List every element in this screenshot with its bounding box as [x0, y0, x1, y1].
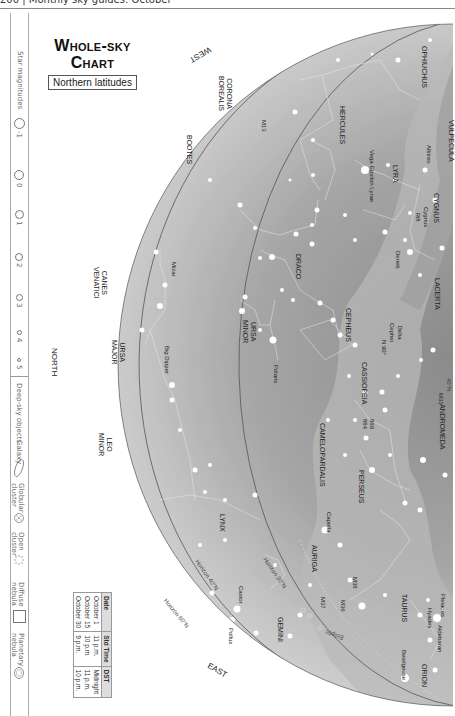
title-block: Whole-sky Chart Northern latitudes: [48, 37, 137, 90]
label-draco: DRACO: [294, 254, 302, 279]
table-row: October 15 10 p.m. 11 p.m.: [83, 593, 92, 698]
magnitude-minus1-icon: [14, 118, 25, 129]
label-cygnus-rift: Cygnus Rift: [414, 207, 430, 227]
label-ophiuchus: OPHIUCHUS: [420, 46, 428, 88]
direction-north: NORTH: [50, 348, 58, 376]
label-deneb: Deneb: [394, 251, 402, 269]
magnitude-2-icon: [15, 253, 23, 261]
open-cluster-icon: [13, 554, 25, 566]
magnitude-label: 5: [15, 365, 23, 369]
label-canes-venatici: CANES VENATICI: [92, 267, 108, 299]
label-m31: M31: [437, 393, 445, 405]
magnitude-label: 2: [15, 263, 23, 267]
magnitude-label: 4: [15, 338, 23, 342]
diffuse-nebula-label: Diffuse nebula: [10, 582, 24, 607]
label-mizar: Mizar: [170, 262, 178, 277]
label-m13: M13: [260, 120, 268, 132]
title-line-2: Chart: [48, 54, 137, 71]
cell-std: 10 p.m.: [83, 632, 92, 666]
label-orion: ORION: [420, 664, 428, 687]
label-cassiopeia: CASSIOPEIA: [360, 362, 368, 404]
label-lyra: LYRA: [391, 165, 399, 183]
label-m37: M37: [319, 597, 327, 609]
label-delta-cephei: Delta Cephei: [388, 323, 404, 342]
globular-cluster-label: Globular cluster: [10, 483, 24, 513]
label-pleiades: Pleiades: [439, 594, 447, 617]
galaxy-ellipse-icon: [13, 458, 25, 478]
label-north-pole-90: N 90°: [380, 340, 388, 355]
label-ngc884: 884: [361, 419, 369, 429]
cell-date: October 1: [92, 593, 102, 632]
cell-date: October 30: [74, 593, 84, 632]
label-m36: M36: [339, 600, 347, 612]
cell-dst: 10 p.m.: [74, 666, 84, 698]
label-epsilon-lyrae: Epsilon Lyrae: [368, 166, 376, 202]
observation-time-table: Date Std Time DST October 1 11 p.m. Midn…: [73, 592, 112, 698]
label-castor: Castor: [237, 586, 245, 604]
cell-std: 9 p.m.: [74, 632, 84, 666]
legend-divider: [11, 376, 28, 377]
cell-dst: 11 p.m.: [83, 666, 92, 698]
label-auriga: AURIGA: [310, 545, 318, 572]
magnitude-3-icon: [16, 294, 23, 301]
label-bootes: BOOTES: [185, 135, 193, 164]
label-hyades: Hyades: [426, 608, 434, 628]
label-camelopardalis: CAMELOPARDALIS: [318, 423, 326, 487]
title-line-1: Whole-sky: [48, 37, 137, 54]
label-leo-minor: LEO MINOR: [97, 433, 113, 456]
label-ursa-minor: URSA MINOR: [241, 320, 257, 343]
magnitude-1-icon: [15, 210, 24, 219]
label-vega: Vega: [368, 150, 376, 164]
label-cygnus: CYGNUS: [432, 193, 440, 223]
planetary-nebula-label: Planetary nebula: [10, 633, 24, 666]
label-betelgeuse: Betelgeuse: [400, 650, 408, 680]
diffuse-nebula-square-icon: [13, 610, 26, 623]
label-hercules: HERCULES: [338, 106, 346, 144]
magnitude-5-icon: [17, 358, 21, 362]
magnitude-4-icon: [17, 330, 22, 335]
label-lynx: LYNX: [218, 514, 226, 532]
planetary-nebula-icon: [13, 666, 25, 680]
globular-cluster-icon: [13, 512, 25, 524]
col-date: Date: [102, 593, 112, 632]
chart-title: Whole-sky Chart: [48, 37, 137, 71]
magnitude-label: 0: [15, 183, 23, 187]
deep-sky-label: Deep-sky objects: [15, 383, 23, 443]
cell-date: October 15: [83, 593, 92, 632]
label-cepheus: CEPHEUS: [344, 308, 352, 342]
label-polaris: Polaris: [272, 365, 280, 383]
magnitude-label: -1: [15, 131, 23, 138]
label-big-dipper: Big Dipper: [163, 346, 171, 374]
label-andromeda: ANDROMEDA: [438, 404, 446, 450]
label-lacerta: LACERTA: [433, 278, 441, 310]
star-magnitudes-label: Star magnitudes: [16, 51, 24, 109]
label-taurus: TAURUS: [400, 594, 408, 622]
table-row: October 30 9 p.m. 10 p.m.: [74, 593, 84, 698]
label-pollux: Pollux: [227, 628, 235, 644]
table-header-row: Date Std Time DST: [102, 593, 112, 698]
label-aldebaran: Aldebaran: [436, 625, 444, 652]
label-gemini: GEMINI: [276, 617, 284, 642]
label-perseus: PERSEUS: [357, 470, 365, 503]
magnitude-0-icon: [14, 170, 24, 180]
legend-strip: Star magnitudes -1 0 1 2 3 4 5 Deep-sky …: [10, 13, 29, 716]
label-vulpecula: VULPECULA: [447, 120, 455, 162]
label-ursa-major: URSA MAJOR: [110, 340, 126, 365]
chart-subtitle: Northern latitudes: [48, 75, 137, 90]
magnitude-label: 3: [15, 303, 23, 307]
label-albireo: Albireo: [425, 145, 433, 164]
open-cluster-label: Open cluster: [10, 532, 24, 556]
cell-dst: Midnight: [92, 666, 102, 698]
table-row: October 1 11 p.m. Midnight: [92, 593, 102, 698]
label-m38: M38: [351, 577, 359, 589]
col-std-time: Std Time: [102, 632, 112, 666]
label-ngc869: 869: [368, 419, 376, 429]
magnitude-label: 1: [15, 221, 23, 225]
cell-std: 11 p.m.: [92, 632, 102, 666]
latitude-40-label: 40°N: [445, 378, 453, 391]
col-dst: DST: [102, 666, 112, 698]
label-capella: Capella: [325, 512, 333, 532]
label-corona-borealis: CORONA BOREALIS: [217, 76, 233, 111]
